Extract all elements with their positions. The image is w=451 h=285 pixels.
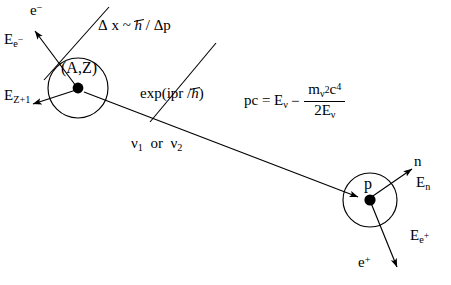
- electron-energy-symbol: E: [4, 31, 13, 47]
- neutron-energy-label: En: [416, 175, 430, 192]
- positron-energy-subscript: e+: [419, 234, 429, 245]
- neutron-energy-subscript: n: [425, 181, 430, 192]
- electron-symbol: e: [30, 2, 37, 18]
- positron-charge-superscript: +: [365, 254, 371, 265]
- denominator-subscript: ν: [331, 109, 336, 120]
- formula-minus-sign: −: [291, 93, 299, 110]
- wavefunction-pointer-line: [150, 43, 216, 122]
- neutrino-conjunction: or: [150, 135, 163, 151]
- numerator-c-exponent: 4: [336, 81, 341, 92]
- daughter-recoil-arrow: [33, 90, 76, 104]
- positron-emission-arrow: [371, 203, 397, 267]
- positron-label: e+: [358, 255, 370, 270]
- numerator-mass-symbol: m: [308, 81, 320, 97]
- neutrino-states-label: ν1 or ν2: [131, 136, 182, 153]
- neutrino-subscript-1: 1: [138, 142, 143, 153]
- neutron-label: n: [414, 154, 422, 169]
- electron-energy-sub-superscript: −: [18, 34, 23, 45]
- formula-lead: pc = Eν: [244, 92, 288, 110]
- neutrino-symbol-1: ν: [131, 135, 138, 151]
- formula-denominator: 2Eν: [310, 102, 339, 121]
- electron-charge-superscript: −: [37, 2, 43, 13]
- neutrino-interaction-diagram: (A,Z) p e− Ee− EZ+1 Δ x ~ h / Δp exp(ipr…: [0, 0, 451, 285]
- neutron-energy-symbol: E: [416, 174, 425, 190]
- electron-energy-subscript: e−: [13, 38, 23, 49]
- uncertainty-relation-label: Δ x ~ h / Δp: [98, 18, 171, 33]
- electron-energy-label: Ee−: [4, 32, 23, 49]
- electron-label: e−: [30, 3, 42, 18]
- hbar-glyph: h: [135, 18, 143, 33]
- daughter-energy-label: EZ+1: [4, 88, 30, 105]
- proton-label: p: [364, 176, 372, 192]
- wavefunction-prefix: exp(ipr /: [140, 85, 191, 101]
- proton-dot: [364, 194, 375, 205]
- denominator-text: 2E: [314, 102, 331, 118]
- daughter-energy-subscript: Z+1: [13, 94, 30, 105]
- neutrino-momentum-formula: pc = Eν− mν2c4 2Eν: [244, 82, 345, 120]
- positron-energy-label: Ee+: [410, 228, 429, 245]
- positron-energy-sub-superscript: +: [424, 230, 429, 241]
- wavefunction-label: exp(ipr /h): [140, 86, 204, 101]
- daughter-energy-symbol: E: [4, 87, 13, 103]
- nucleus-label: (A,Z): [61, 60, 97, 76]
- formula-lead-subscript: ν: [283, 99, 288, 110]
- formula-fraction: mν2c4 2Eν: [304, 82, 345, 120]
- neutrino-subscript-2: 2: [177, 142, 182, 153]
- formula-numerator: mν2c4: [304, 82, 345, 101]
- hbar-glyph: h: [191, 86, 199, 101]
- formula-lead-text: pc = E: [244, 92, 283, 108]
- positron-energy-symbol: E: [410, 227, 419, 243]
- nucleus-dot: [73, 83, 84, 94]
- positron-symbol: e: [358, 254, 365, 270]
- diagram-canvas: [0, 0, 451, 285]
